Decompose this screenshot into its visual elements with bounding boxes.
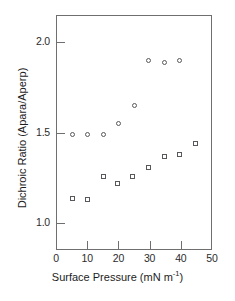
x-tick-mark (150, 241, 151, 250)
x-tick-label: 50 (200, 252, 224, 264)
data-point-square (146, 165, 151, 170)
x-tick-label: 0 (44, 252, 68, 264)
x-axis-label-exponent: -1 (173, 269, 180, 278)
figure: 1.01.52.0 01020304050 Surface Pressure (… (0, 0, 235, 301)
x-tick-mark (118, 241, 119, 250)
data-point-square (177, 152, 182, 157)
data-point-circle (146, 58, 151, 63)
y-tick-mark (56, 42, 65, 43)
data-point-circle (116, 121, 121, 126)
x-tick-mark (87, 241, 88, 250)
y-axis-label: Dichroic Ratio (Apara/Aperp) (16, 18, 28, 258)
x-tick-label: 40 (169, 252, 193, 264)
data-point-square (130, 174, 135, 179)
x-tick-mark (181, 241, 182, 250)
x-axis-label: Surface Pressure (mN m-1) (0, 269, 235, 283)
data-point-circle (70, 132, 75, 137)
data-point-square (162, 154, 167, 159)
data-point-square (101, 174, 106, 179)
data-point-circle (101, 132, 106, 137)
data-point-circle (132, 103, 137, 108)
y-tick-mark (56, 223, 65, 224)
data-point-square (193, 141, 198, 146)
data-point-square (115, 181, 120, 186)
y-tick-mark (56, 133, 65, 134)
x-tick-label: 10 (75, 252, 99, 264)
data-point-circle (85, 132, 90, 137)
x-tick-label: 30 (138, 252, 162, 264)
data-point-square (85, 197, 90, 202)
data-point-circle (177, 58, 182, 63)
plot-area (56, 15, 212, 250)
x-tick-label: 20 (106, 252, 130, 264)
data-point-circle (162, 60, 167, 65)
data-point-square (70, 196, 75, 201)
